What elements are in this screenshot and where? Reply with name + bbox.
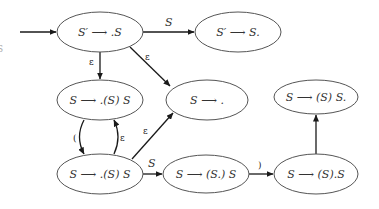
edge-label-s0-s1: S — [165, 16, 173, 29]
state-s7: S ⟶ (S).S — [274, 154, 358, 194]
state-s2: S ⟶ .(S) S — [57, 80, 143, 120]
edge-label-s0-s3: ε — [145, 52, 150, 62]
state-s4: S ⟶ (S) S. — [274, 80, 358, 114]
edge-s5-s2 — [114, 120, 118, 154]
state-label: S ⟶ (S.) S — [176, 168, 237, 181]
state-s5: S ⟶ .(S) S — [57, 154, 143, 194]
edge-s0-s3 — [130, 47, 170, 86]
lr0-nfa-diagram: S S ε ε ( ε ε S ) S′ ⟶ .S S′ ⟶ S. S ⟶ .(… — [0, 0, 379, 209]
state-s0: S′ ⟶ .S — [57, 12, 143, 52]
state-label: S ⟶ .(S) S — [70, 94, 131, 107]
state-s6: S ⟶ (S.) S — [163, 155, 249, 193]
state-s3: S ⟶ . — [166, 80, 248, 120]
edge-label-s5-s3: ε — [143, 126, 148, 136]
edge-label-s0-s2: ε — [89, 57, 94, 67]
edge-label-s2-s5: ( — [73, 133, 77, 143]
edge-s2-s5 — [80, 120, 85, 154]
state-label: S ⟶ . — [190, 94, 224, 107]
state-label: S′ ⟶ .S — [78, 26, 122, 39]
edge-label-s5-s6: S — [148, 157, 156, 170]
state-label: S ⟶ .(S) S — [70, 168, 131, 181]
state-label: S ⟶ (S) S. — [286, 91, 347, 104]
state-label: S′ ⟶ S. — [216, 26, 259, 39]
state-label: S ⟶ (S).S — [287, 168, 345, 181]
state-s1: S′ ⟶ S. — [195, 12, 281, 52]
edge-s5-s3 — [132, 113, 173, 159]
edge-label-s5-s2: ε — [120, 133, 125, 143]
cropped-glyph-fragment: S — [0, 44, 3, 54]
edge-label-s6-s7: ) — [258, 160, 262, 170]
